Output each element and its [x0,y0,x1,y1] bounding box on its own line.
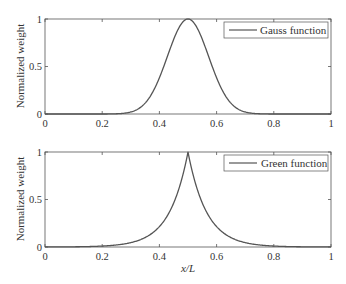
x-tick-label: 1 [328,251,333,262]
x-tick-label: 0.2 [96,118,109,129]
legend: Green function [224,155,328,171]
x-tick-label: 0.8 [267,251,280,262]
x-tick-label: 0 [42,118,47,129]
x-tick-label: 1 [328,118,333,129]
y-tick-label: 0 [37,242,42,253]
x-tick-label: 0.4 [153,251,167,262]
x-tick-label: 0 [42,251,47,262]
x-tick-label: 0.4 [153,118,167,129]
y-tick-label: 0.5 [29,61,42,72]
y-tick-label: 1 [37,147,42,158]
x-tick-label: 0.8 [267,118,280,129]
y-tick-label: 1 [37,14,42,25]
x-axis-label: x/L [180,262,195,274]
x-tick-label: 0.2 [96,251,109,262]
x-tick-label: 0.6 [210,118,223,129]
y-tick-label: 0 [37,109,42,120]
legend: Gauss function [224,22,328,38]
figure: 00.20.40.60.8100.51 Normalized weight Ga… [0,0,346,284]
x-tick-label: 0.6 [210,251,223,262]
legend-label: Green function [261,157,328,169]
legend-label: Gauss function [260,24,327,36]
y-tick-label: 0.5 [29,194,42,205]
gauss-panel: 00.20.40.60.8100.51 Normalized weight Ga… [14,14,334,130]
green-panel: 00.20.40.60.8100.51 Normalized weight Gr… [14,147,334,275]
y-axis-label: Normalized weight [14,157,26,242]
y-axis-label: Normalized weight [14,24,26,109]
